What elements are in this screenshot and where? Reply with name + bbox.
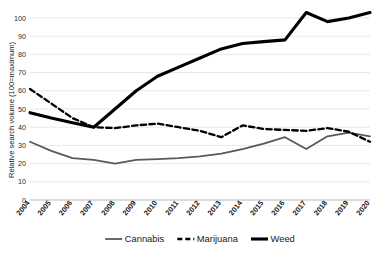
- x-tick-label: 2011: [163, 199, 180, 217]
- x-tick-label: 2015: [248, 199, 265, 218]
- x-tick-label: 2008: [99, 199, 116, 218]
- x-tick-label: 2007: [78, 199, 95, 218]
- x-tick-label: 2013: [206, 199, 223, 218]
- y-tick-label: 70: [18, 68, 26, 77]
- x-tick-label: 2020: [354, 199, 371, 218]
- legend-label-weed[interactable]: Weed: [270, 233, 294, 244]
- chart-canvas: 0102030405060708090100 20042005200620072…: [0, 0, 377, 258]
- y-tick-label: 60: [18, 86, 26, 95]
- legend-label-cannabis[interactable]: Cannabis: [125, 233, 165, 244]
- y-axis-title: Relative search volume (100=maximum): [7, 41, 16, 178]
- y-tick-label: 50: [18, 105, 26, 114]
- x-tick-label: 2017: [291, 199, 308, 218]
- x-tick-label: 2014: [227, 198, 245, 217]
- x-tick-label: 2004: [14, 198, 32, 217]
- legend-label-marijuana[interactable]: Marijuana: [197, 233, 239, 244]
- x-tick-label: 2012: [184, 199, 201, 218]
- x-tick-label: 2006: [57, 199, 74, 218]
- legend-group: CannabisMarijuanaWeed: [105, 233, 295, 244]
- y-tick-label: 10: [18, 177, 26, 186]
- x-tick-label: 2005: [36, 199, 53, 218]
- line-chart: 0102030405060708090100 20042005200620072…: [0, 0, 377, 258]
- series-group: [30, 13, 370, 164]
- y-tick-label: 40: [18, 123, 26, 132]
- x-tick-label: 2010: [142, 199, 159, 218]
- series-line-cannabis: [30, 133, 370, 164]
- series-line-weed: [30, 13, 370, 128]
- x-tick-label: 2019: [333, 199, 350, 218]
- y-tick-label: 90: [18, 32, 26, 41]
- x-axis-group: 2004200520062007200820092010201120122013…: [14, 198, 371, 217]
- x-tick-label: 2009: [121, 199, 138, 218]
- y-tick-label: 80: [18, 50, 26, 59]
- y-axis-title-group: Relative search volume (100=maximum): [7, 41, 16, 178]
- x-tick-label: 2018: [312, 199, 329, 218]
- y-tick-label: 30: [18, 141, 26, 150]
- series-line-marijuana: [30, 89, 370, 142]
- gridlines-group: [30, 18, 370, 200]
- x-tick-label: 2016: [269, 199, 286, 218]
- y-tick-label: 100: [14, 14, 26, 23]
- y-tick-label: 20: [18, 159, 26, 168]
